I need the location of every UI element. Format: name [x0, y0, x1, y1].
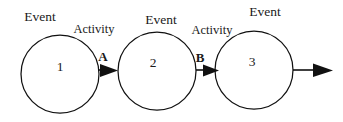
- node-event-2-label: Event: [145, 12, 177, 27]
- diagram-canvas: 1 Event 2 Event 3 Event Activity A Activ…: [0, 0, 343, 122]
- connector-activity-a-label: Activity: [74, 22, 116, 36]
- node-event-3[interactable]: 3: [215, 31, 293, 109]
- node-event-1-label: Event: [24, 9, 56, 24]
- network-diagram: 1 Event 2 Event 3 Event Activity A Activ…: [0, 0, 343, 122]
- node-event-2[interactable]: 2: [118, 32, 196, 110]
- connector-activity-b-label: Activity: [192, 23, 234, 37]
- node-event-2-circle: [118, 32, 196, 110]
- node-event-2-number: 2: [150, 55, 157, 70]
- connector-activity-b-id: B: [196, 50, 205, 65]
- node-event-1-number: 1: [57, 59, 64, 74]
- connector-activity-a-arrowhead: [100, 64, 118, 77]
- node-event-3-circle: [215, 31, 293, 109]
- connector-outgoing-arrowhead: [313, 64, 333, 78]
- node-event-3-label: Event: [249, 4, 281, 19]
- connector-activity-b-arrowhead: [203, 65, 219, 77]
- connector-outgoing[interactable]: [293, 64, 333, 78]
- node-event-1[interactable]: 1: [21, 35, 99, 113]
- connector-activity-a-id: A: [98, 49, 108, 64]
- connector-activity-a[interactable]: [98, 64, 118, 77]
- node-event-3-number: 3: [249, 54, 256, 69]
